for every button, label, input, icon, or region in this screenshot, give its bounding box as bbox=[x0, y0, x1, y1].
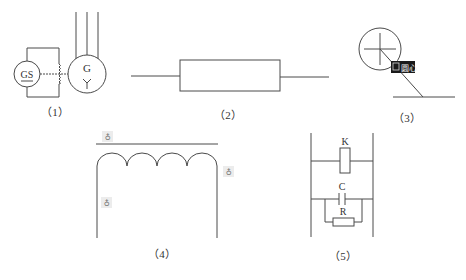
figure-2: （2） bbox=[131, 60, 329, 121]
snap-tooltip: 圆心 bbox=[391, 61, 417, 73]
snap-tooltip-text: 圆心 bbox=[401, 64, 417, 73]
inductor-coil bbox=[97, 153, 217, 238]
wye-symbol-top bbox=[83, 79, 91, 83]
resistor-lead-right bbox=[354, 199, 362, 222]
grip-marker[interactable]: ♁ bbox=[102, 131, 113, 142]
grip-marker[interactable]: ♁ bbox=[101, 197, 112, 208]
diagram-canvas: GS G （1） （2） 圆心 bbox=[0, 0, 466, 280]
figure-1: GS G （1） bbox=[14, 12, 106, 118]
resistor bbox=[333, 218, 354, 226]
resistor-lead-left bbox=[325, 199, 333, 222]
exciter-label: GS bbox=[21, 69, 34, 80]
figure-3: 圆心 （3） bbox=[359, 28, 455, 124]
grip-icon: ♁ bbox=[104, 199, 110, 208]
capacitor-label: C bbox=[339, 181, 346, 192]
figure-5: K C R （5） bbox=[311, 133, 373, 262]
component-box bbox=[180, 60, 280, 91]
relay-label: K bbox=[341, 136, 349, 147]
grip-marker[interactable]: ♁ bbox=[223, 166, 234, 177]
resistor-label: R bbox=[340, 206, 347, 217]
figure-2-caption: （2） bbox=[214, 109, 242, 121]
figure-3-caption: （3） bbox=[393, 112, 421, 124]
figure-4-caption: （4） bbox=[148, 248, 176, 260]
figure-5-caption: （5） bbox=[329, 250, 357, 262]
grip-icon: ♁ bbox=[226, 168, 232, 177]
grip-icon: ♁ bbox=[105, 133, 111, 142]
generator-label: G bbox=[83, 62, 91, 74]
figure-1-caption: （1） bbox=[41, 106, 69, 118]
relay-coil bbox=[340, 148, 350, 173]
figure-4: ♁ ♁ ♁ （4） bbox=[96, 131, 234, 260]
